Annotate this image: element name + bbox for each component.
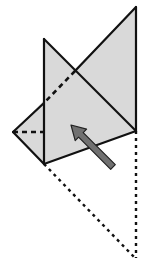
folding-diagram [0, 0, 148, 260]
dotted-diagonal-guide [44, 164, 135, 258]
